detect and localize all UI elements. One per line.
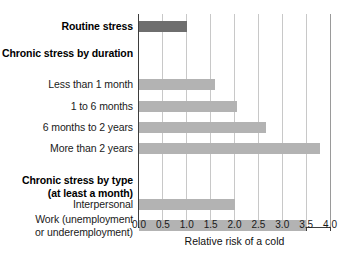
x-tick-label-4.0: 4.0 <box>315 219 345 230</box>
gridline-2.0 <box>234 14 235 227</box>
gridline-3.0 <box>282 14 283 227</box>
y-axis-line <box>138 14 139 227</box>
row-label-4: 6 months to 2 years <box>43 121 133 134</box>
bar-5 <box>139 143 320 154</box>
row-label-2: Less than 1 month <box>48 78 133 91</box>
bar-4 <box>139 122 266 133</box>
row-label-7: Interpersonal <box>73 198 133 211</box>
bar-7 <box>139 199 235 210</box>
row-label-3: 1 to 6 months <box>71 100 133 113</box>
row-label-8: Work (unemployment or underemployment) <box>35 213 133 238</box>
gridline-2.5 <box>258 14 259 227</box>
gridline-3.5 <box>306 14 307 227</box>
gridline-1.0 <box>186 14 187 227</box>
gridline-0.5 <box>162 14 163 227</box>
x-axis-title: Relative risk of a cold <box>139 235 330 247</box>
category-label-column: Routine stressChronic stress by duration… <box>0 0 136 273</box>
relative-risk-bar-chart: Routine stressChronic stress by duration… <box>0 0 356 273</box>
row-label-6: Chronic stress by type (at least a month… <box>22 174 133 199</box>
gridline-1.5 <box>210 14 211 227</box>
bar-3 <box>139 101 237 112</box>
bar-2 <box>139 79 215 90</box>
row-label-0: Routine stress <box>61 20 133 33</box>
row-label-1: Chronic stress by duration <box>2 47 133 60</box>
row-label-5: More than 2 years <box>50 142 133 155</box>
gridline-4.0 <box>330 14 331 227</box>
bar-0 <box>139 21 187 32</box>
plot-area <box>139 14 330 227</box>
